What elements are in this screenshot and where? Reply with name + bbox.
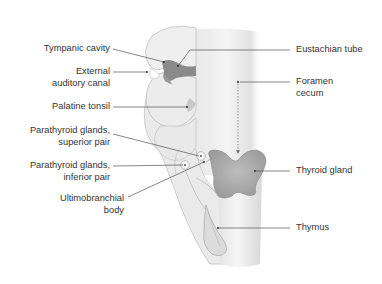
label-line: inferior pair — [30, 172, 110, 184]
label-line: Palatine tonsil — [52, 101, 110, 113]
label-line: Thymus — [296, 222, 329, 234]
label-line: auditory canal — [52, 78, 110, 90]
label-line: External — [52, 66, 110, 78]
label-thymus: Thymus — [296, 222, 329, 234]
label-ultimobranchial-body: Ultimobranchial body — [60, 193, 124, 216]
label-line: Parathyroid glands, — [30, 125, 110, 137]
label-thyroid-gland: Thyroid gland — [296, 165, 352, 177]
label-line: Parathyroid glands, — [30, 160, 110, 172]
label-line: Tympanic cavity — [44, 43, 110, 55]
label-tympanic-cavity: Tympanic cavity — [44, 43, 110, 55]
label-line: Thyroid gland — [296, 165, 352, 177]
label-line: cecum — [296, 88, 333, 100]
label-line: Foramen — [296, 76, 333, 88]
label-palatine-tonsil: Palatine tonsil — [52, 101, 110, 113]
label-line: body — [60, 205, 124, 217]
label-parathyroid-inferior: Parathyroid glands, inferior pair — [30, 160, 110, 183]
label-eustachian-tube: Eustachian tube — [296, 44, 363, 56]
label-external-auditory-canal: External auditory canal — [52, 66, 110, 89]
label-line: Ultimobranchial — [60, 193, 124, 205]
label-foramen-cecum: Foramen cecum — [296, 76, 333, 99]
label-line: superior pair — [30, 137, 110, 149]
label-line: Eustachian tube — [296, 44, 363, 56]
label-parathyroid-superior: Parathyroid glands, superior pair — [30, 125, 110, 148]
